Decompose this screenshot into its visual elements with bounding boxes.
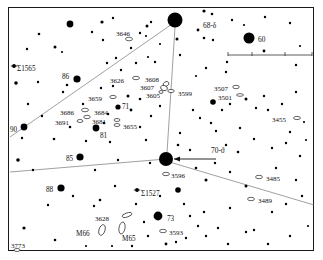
- field-star: [117, 159, 119, 161]
- field-star: [16, 158, 20, 162]
- field-star: [245, 231, 247, 233]
- field-star: [267, 243, 269, 245]
- field-star: [299, 45, 301, 47]
- object-label: 3646: [116, 31, 130, 38]
- object-label: 3455: [272, 117, 286, 124]
- field-star: [69, 126, 72, 129]
- object-label: 71: [122, 104, 129, 111]
- field-star: [221, 109, 223, 111]
- field-star: [197, 29, 200, 32]
- object-label: 3686: [60, 110, 74, 117]
- object-label: 3489: [258, 198, 272, 205]
- star-70-theta: [159, 152, 173, 166]
- object-label: 3655: [123, 124, 137, 131]
- chart-plot-layer: [0, 0, 323, 260]
- object-label: 3628: [95, 216, 109, 223]
- field-star: [212, 39, 214, 41]
- field-star: [295, 91, 297, 93]
- field-star: [47, 204, 49, 206]
- object-label: 68-δ: [203, 22, 216, 29]
- field-star: [22, 226, 25, 229]
- field-star: [85, 140, 87, 142]
- field-star: [231, 19, 233, 21]
- field-star: [109, 141, 111, 143]
- field-star: [120, 69, 122, 71]
- star-85: [76, 153, 83, 160]
- star-68-delta: [168, 13, 183, 28]
- star-71: [115, 104, 120, 109]
- object-label: 81: [100, 133, 107, 140]
- field-star: [227, 243, 229, 245]
- field-star: [159, 105, 161, 107]
- star-86: [73, 75, 80, 82]
- field-star: [203, 211, 205, 213]
- field-star: [154, 61, 156, 63]
- field-star: [267, 109, 269, 111]
- galaxy-3507: [233, 85, 240, 88]
- galaxy-3596: [163, 172, 170, 175]
- field-star: [135, 203, 137, 205]
- galaxy-3681: [114, 119, 120, 122]
- field-star: [264, 16, 266, 18]
- field-star: [112, 17, 114, 19]
- field-star: [99, 199, 102, 202]
- field-star: [205, 235, 207, 237]
- field-star: [195, 167, 198, 170]
- field-star: [26, 48, 28, 50]
- galaxy-3489: [248, 197, 255, 200]
- field-star: [175, 241, 177, 243]
- field-star: [225, 71, 227, 73]
- object-label: 73: [167, 216, 174, 223]
- field-star: [150, 21, 152, 23]
- field-star: [54, 239, 57, 242]
- field-star: [271, 211, 273, 213]
- star-3501-star: [210, 99, 216, 105]
- field-star: [143, 221, 145, 223]
- galaxy-3626: [133, 76, 140, 79]
- field-star: [189, 215, 191, 217]
- field-star: [165, 243, 168, 246]
- field-star: [245, 185, 248, 188]
- field-star: [61, 51, 63, 53]
- field-star: [202, 9, 205, 12]
- field-star: [14, 81, 18, 85]
- field-star: [195, 75, 197, 77]
- field-star: [197, 225, 199, 227]
- field-star: [139, 126, 141, 128]
- field-star: [229, 171, 231, 173]
- field-star: [229, 207, 231, 209]
- field-star: [263, 50, 266, 53]
- galaxy-3485: [256, 175, 263, 178]
- field-star: [295, 64, 297, 66]
- galaxy-3593: [160, 229, 167, 232]
- object-label: 3605: [146, 93, 160, 100]
- object-label: 3659: [88, 96, 102, 103]
- field-star: [67, 21, 74, 28]
- object-label: 60: [258, 36, 265, 43]
- star-73: [154, 212, 163, 221]
- field-star: [285, 203, 287, 205]
- galaxy-3628: [122, 212, 133, 219]
- galaxy-3599: [168, 89, 175, 92]
- field-star: [32, 169, 34, 171]
- field-star: [72, 195, 74, 197]
- field-star: [239, 127, 241, 129]
- field-star: [210, 122, 212, 124]
- object-label: 85: [66, 156, 73, 163]
- field-star: [176, 38, 179, 41]
- field-star: [54, 46, 57, 49]
- field-star: [139, 98, 142, 101]
- field-star: [253, 138, 255, 140]
- galaxy-3655: [114, 124, 120, 127]
- field-star: [38, 33, 41, 36]
- field-star: [82, 103, 84, 105]
- object-label: 3485: [266, 176, 280, 183]
- galaxy-3684: [84, 115, 91, 118]
- field-star: [275, 167, 277, 169]
- constellation-line: [166, 161, 314, 205]
- pointer-arrow-head: [174, 156, 180, 161]
- field-star: [146, 25, 149, 28]
- field-star: [91, 31, 93, 33]
- field-star: [147, 235, 149, 237]
- field-star: [185, 237, 187, 239]
